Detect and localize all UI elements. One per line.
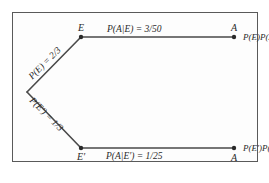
node-label-e-prime: E′ [77, 152, 85, 162]
branch-label-p-a-given-e: P(A|E) = 3/50 [107, 25, 161, 35]
node-e-dot [79, 35, 83, 39]
node-label-a-bottom: A [231, 153, 237, 163]
node-label-e: E [78, 23, 84, 33]
branch-label-p-a-given-e-prime: P(A|E′) = 1/25 [106, 152, 162, 162]
node-e-prime-dot [79, 146, 83, 150]
outcome-bottom: P(E′)P(A|E′) [243, 144, 269, 153]
node-a-top-dot [232, 35, 236, 39]
node-label-a-top: A [231, 23, 237, 33]
node-a-bottom-dot [232, 146, 236, 150]
outcome-top: P(E)P(A|E) [243, 33, 269, 42]
